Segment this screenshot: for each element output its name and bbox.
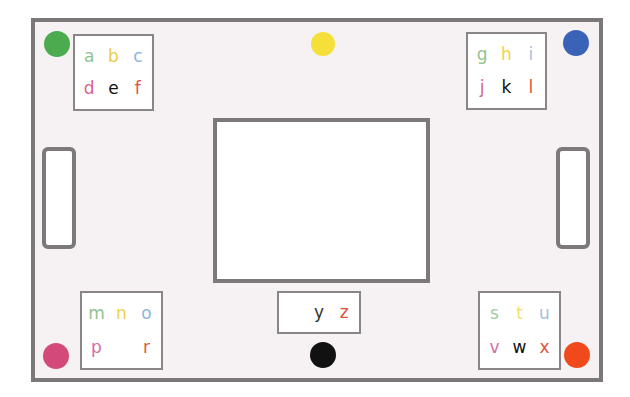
letter: g — [470, 38, 494, 71]
letter: e — [101, 73, 125, 106]
letter: k — [494, 71, 518, 104]
yellow-dot — [311, 32, 335, 56]
right-handle — [556, 147, 590, 249]
center-rectangle — [213, 118, 430, 283]
letter: u — [532, 297, 557, 331]
letter: p — [84, 331, 109, 365]
left-handle — [42, 147, 76, 249]
letter: z — [332, 297, 357, 328]
letter-box-top-left: a b c d e f — [73, 34, 154, 111]
letter: a — [77, 40, 101, 73]
letter: i — [519, 38, 543, 71]
letter: w — [507, 331, 532, 365]
letter: x — [532, 331, 557, 365]
letter-box-top-right: g h i j k l — [466, 32, 547, 110]
letter-blank — [109, 331, 134, 365]
letter: l — [519, 71, 543, 104]
letter-box-bottom-right: s t u v w x — [478, 291, 561, 370]
orange-dot — [564, 342, 590, 368]
letter: f — [126, 73, 150, 106]
letter: o — [134, 297, 159, 331]
letter-blank — [281, 297, 306, 328]
letter: h — [494, 38, 518, 71]
letter: b — [101, 40, 125, 73]
letter: n — [109, 297, 134, 331]
letter: s — [482, 297, 507, 331]
letter: v — [482, 331, 507, 365]
letter: c — [126, 40, 150, 73]
letter: y — [306, 297, 331, 328]
letter: t — [507, 297, 532, 331]
letter: r — [134, 331, 159, 365]
green-dot — [44, 31, 70, 57]
blue-dot — [563, 30, 589, 56]
letter: m — [84, 297, 109, 331]
letter-box-bottom-left: m n o p r — [80, 291, 163, 370]
letter: j — [470, 71, 494, 104]
letter: d — [77, 73, 101, 106]
black-dot — [310, 342, 336, 368]
pink-dot — [43, 343, 69, 369]
letter-box-bottom-center: y z — [277, 291, 361, 334]
